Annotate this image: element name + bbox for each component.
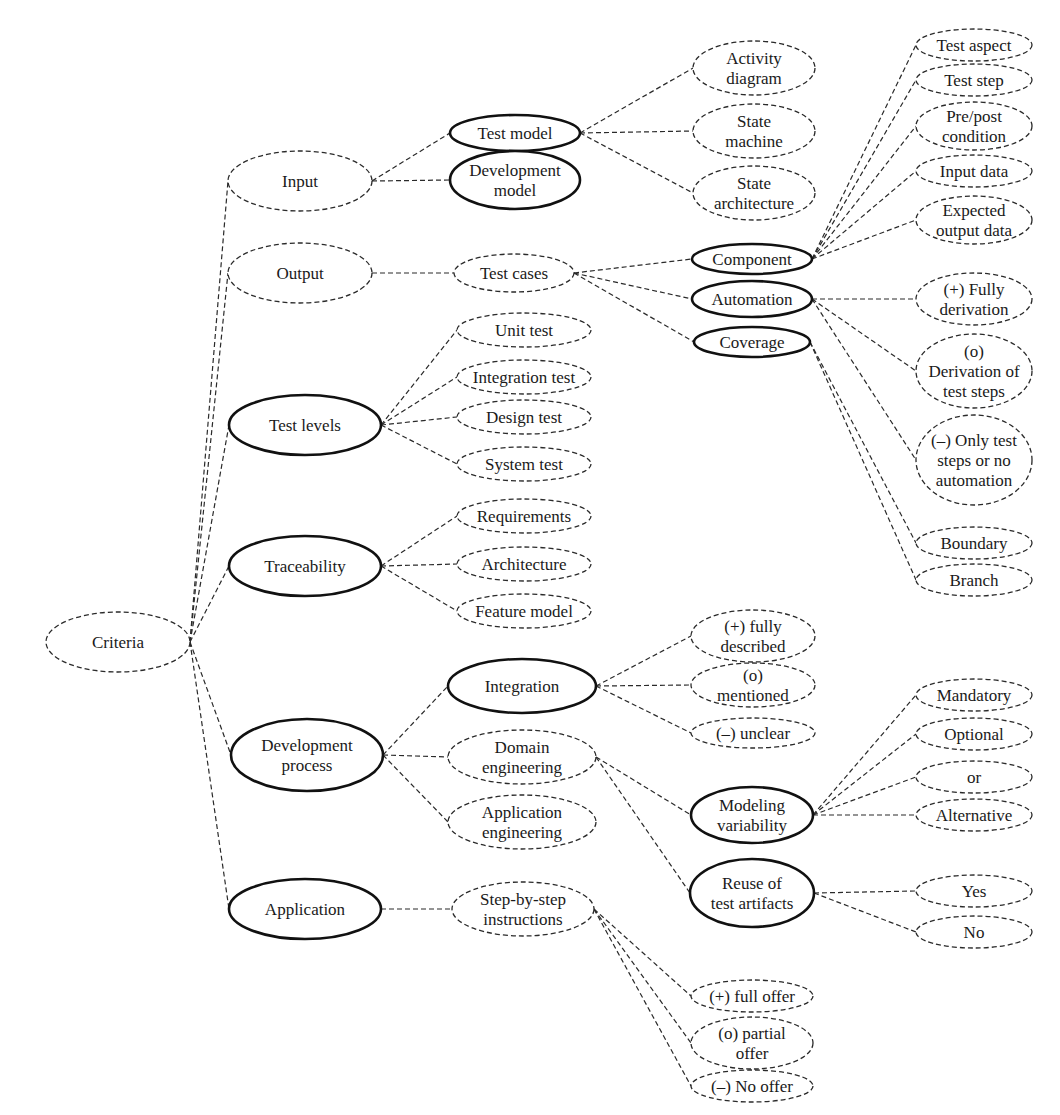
node-output: Output (228, 243, 372, 303)
node-label: derivation (940, 300, 1009, 319)
node-label: test steps (943, 382, 1005, 401)
edge-development-process-to-integration (383, 686, 448, 755)
node-label: Feature model (475, 602, 573, 621)
node-label: (o) partial (718, 1024, 786, 1043)
node-label: Activity (726, 49, 782, 68)
edge-test-model-to-activity-diagram (580, 68, 693, 133)
node-label: State (737, 112, 771, 131)
node-label: (+) full offer (709, 987, 795, 1006)
node-or: or (916, 761, 1032, 793)
criteria-tree-diagram: CriteriaInputOutputTest levelsTraceabili… (0, 0, 1060, 1115)
node-label: Derivation of (928, 362, 1019, 381)
node-test-model: Test model (450, 115, 580, 151)
node-derivation-of-test-steps: (o)Derivation oftest steps (916, 334, 1032, 408)
node-label: Criteria (92, 633, 144, 652)
node-label: instructions (483, 910, 562, 929)
node-mandatory: Mandatory (916, 679, 1032, 711)
node-label: model (494, 181, 537, 200)
node-reuse-of-test-artifacts: Reuse oftest artifacts (690, 859, 814, 927)
edge-criteria-to-output (190, 273, 228, 642)
node-test-aspect: Test aspect (916, 29, 1032, 61)
node-label: No (964, 923, 985, 942)
node-shape (450, 151, 580, 209)
node-fully-described: (+) fullydescribed (691, 610, 815, 662)
node-label: described (720, 637, 786, 656)
edge-component-to-pre-post-condition (812, 126, 916, 259)
node-application-engineering: Applicationengineering (448, 795, 596, 849)
node-label: (o) (964, 342, 984, 361)
node-architecture: Architecture (457, 547, 591, 581)
edge-modeling-variability-to-optional (813, 734, 916, 815)
edge-criteria-to-input (190, 181, 228, 642)
node-step-by-step-instructions: Step-by-stepinstructions (452, 882, 594, 936)
node-pre-post-condition: Pre/postcondition (916, 102, 1032, 150)
node-system-test: System test (457, 447, 591, 481)
node-yes: Yes (916, 875, 1032, 907)
node-label: engineering (482, 758, 563, 777)
node-label: Traceability (264, 557, 346, 576)
edge-component-to-test-step (812, 80, 916, 259)
node-label: Output (276, 264, 324, 283)
node-label: Reuse of (722, 874, 782, 893)
node-label: Input (282, 172, 318, 191)
node-label: Test levels (269, 416, 341, 435)
node-input: Input (228, 151, 372, 211)
node-partial-offer: (o) partialoffer (691, 1017, 813, 1069)
edge-step-by-step-instructions-to-full-offer (594, 909, 691, 996)
node-label: Pre/post (946, 107, 1002, 126)
node-integration: Integration (448, 659, 596, 713)
node-label: offer (736, 1044, 769, 1063)
edge-automation-to-only-test-steps (812, 299, 916, 460)
edge-modeling-variability-to-mandatory (813, 695, 916, 815)
node-shape (231, 719, 383, 791)
node-label: condition (942, 127, 1007, 146)
edge-reuse-of-test-artifacts-to-no (814, 893, 916, 932)
node-label: Optional (944, 725, 1004, 744)
nodes-layer: CriteriaInputOutputTest levelsTraceabili… (46, 29, 1032, 1102)
node-label: Alternative (936, 806, 1012, 825)
edge-test-cases-to-automation (574, 273, 692, 299)
edge-integration-to-mentioned (596, 685, 691, 686)
node-input-data: Input data (916, 155, 1032, 187)
edge-test-levels-to-system-test (381, 425, 457, 464)
node-label: Test model (478, 124, 553, 143)
node-label: Integration (485, 677, 560, 696)
node-label: (–) unclear (716, 724, 790, 743)
node-label: System test (485, 455, 563, 474)
node-label: Application (265, 900, 346, 919)
edge-development-process-to-application-engineering (383, 755, 448, 822)
node-feature-model: Feature model (457, 594, 591, 628)
node-optional: Optional (916, 718, 1032, 750)
node-shape (690, 859, 814, 927)
node-label: Unit test (495, 321, 553, 340)
edge-automation-to-derivation-of-test-steps (812, 299, 916, 371)
node-criteria: Criteria (46, 612, 190, 672)
node-label: Step-by-step (480, 890, 566, 909)
node-label: Test cases (480, 264, 548, 283)
edge-test-cases-to-component (574, 259, 692, 273)
edge-component-to-input-data (812, 171, 916, 259)
node-label: Mandatory (937, 686, 1012, 705)
node-label: Integration test (473, 368, 576, 387)
node-test-step: Test step (916, 64, 1032, 96)
node-fully-derivation: (+) Fullyderivation (916, 273, 1032, 325)
node-test-levels: Test levels (229, 395, 381, 455)
edge-integration-to-fully-described (596, 636, 691, 686)
node-label: (o) (743, 666, 763, 685)
node-component: Component (692, 244, 812, 274)
edge-reuse-of-test-artifacts-to-yes (814, 891, 916, 893)
node-full-offer: (+) full offer (691, 980, 813, 1012)
node-label: Domain (495, 738, 550, 757)
node-no: No (916, 916, 1032, 948)
node-label: Application (482, 803, 563, 822)
edge-traceability-to-architecture (381, 564, 457, 566)
node-label: Test step (944, 71, 1004, 90)
node-label: Test aspect (937, 36, 1012, 55)
node-label: Expected (942, 201, 1006, 220)
node-state-architecture: Statearchitecture (693, 166, 815, 220)
node-label: Design test (486, 408, 562, 427)
node-label: test artifacts (711, 894, 794, 913)
node-automation: Automation (692, 281, 812, 317)
node-label: Component (712, 250, 792, 269)
edge-modeling-variability-to-or (813, 777, 916, 815)
